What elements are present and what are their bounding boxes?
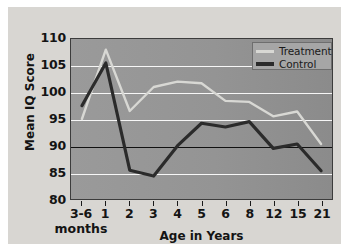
x-tick-label: 8	[245, 206, 254, 221]
figure: 80859095100105110 Mean IQ Score Treatmen…	[0, 0, 349, 251]
y-tick-label: 100	[14, 84, 66, 99]
x-axis-tick-labels: 3-61234568121521	[70, 206, 333, 222]
plot-area: Treatment Control	[70, 38, 333, 200]
legend-item-treatment: Treatment	[256, 45, 328, 57]
chart-panel: 80859095100105110 Mean IQ Score Treatmen…	[8, 7, 341, 244]
x-axis-title: Age in Years	[70, 229, 333, 243]
chart-legend: Treatment Control	[252, 42, 332, 70]
y-axis-ticks: 80859095100105110	[10, 38, 66, 200]
x-tick-label: 4	[173, 206, 182, 221]
y-tick-label: 110	[14, 30, 66, 45]
y-tick-label: 105	[14, 57, 66, 72]
legend-item-control: Control	[256, 58, 328, 70]
x-tick-label: 5	[197, 206, 206, 221]
legend-label-control: Control	[279, 58, 316, 70]
legend-swatch-control	[256, 62, 274, 66]
y-tick-label: 90	[14, 138, 66, 153]
y-axis-title: Mean IQ Score	[23, 32, 37, 172]
legend-label-treatment: Treatment	[279, 45, 332, 57]
x-tick-label: 3	[149, 206, 158, 221]
x-tick-label: 2	[125, 206, 134, 221]
x-tick-label: 21	[314, 206, 331, 221]
x-tick-label: 3-6	[70, 206, 92, 221]
y-tick-label: 95	[14, 111, 66, 126]
y-tick-label: 80	[14, 192, 66, 207]
x-tick-label: 15	[289, 206, 306, 221]
legend-swatch-treatment	[256, 50, 274, 53]
x-tick-label: 6	[221, 206, 230, 221]
x-tick-label: 1	[101, 206, 110, 221]
x-tick-label: 12	[265, 206, 282, 221]
y-tick-label: 85	[14, 165, 66, 180]
